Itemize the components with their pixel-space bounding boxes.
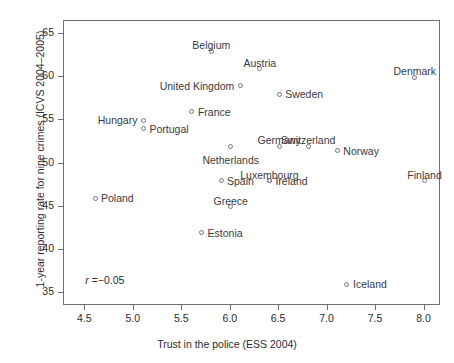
x-tick [133, 305, 134, 310]
data-point [277, 92, 282, 97]
y-tick [58, 76, 63, 77]
data-point-label: Netherlands [202, 155, 259, 166]
x-tick [181, 305, 182, 310]
data-point-label: Sweden [285, 89, 323, 100]
y-axis-title: 1-year reporting rate for nine crimes (I… [34, 14, 46, 304]
x-tick-label: 7.0 [307, 312, 347, 324]
data-point [344, 282, 349, 287]
x-tick-label: 8.0 [404, 312, 444, 324]
x-tick [278, 305, 279, 310]
data-point [267, 178, 272, 183]
x-tick-label: 4.5 [64, 312, 104, 324]
y-tick [58, 292, 63, 293]
x-tick-label: 5.5 [161, 312, 201, 324]
data-point-label: Poland [101, 193, 134, 204]
y-tick [58, 206, 63, 207]
y-tick [58, 119, 63, 120]
data-point [335, 148, 340, 153]
data-point-label: Austria [243, 58, 276, 69]
x-tick [375, 305, 376, 310]
data-point-label: Hungary [98, 115, 138, 126]
x-tick-label: 7.5 [355, 312, 395, 324]
data-point-label: Denmark [394, 66, 437, 77]
data-point [199, 230, 204, 235]
data-point-label: Belgium [192, 40, 230, 51]
data-point [189, 109, 194, 114]
x-tick-label: 5.0 [113, 312, 153, 324]
correlation-value: =−0.05 [89, 274, 125, 286]
data-point [93, 196, 98, 201]
data-point-label: Switzerland [281, 135, 335, 146]
y-tick [58, 163, 63, 164]
x-tick [424, 305, 425, 310]
x-tick [327, 305, 328, 310]
x-axis-title: Trust in the police (ESS 2004) [0, 338, 454, 350]
data-point [219, 178, 224, 183]
x-tick-label: 6.0 [210, 312, 250, 324]
data-point-label: Norway [343, 146, 379, 157]
data-point-label: Ireland [275, 176, 307, 187]
data-point-label: Estonia [208, 228, 243, 239]
data-point-label: Portugal [149, 124, 188, 135]
data-point [141, 126, 146, 131]
scatter-plot-figure: BelgiumAustriaDenmarkUnited KingdomSwede… [0, 0, 454, 363]
data-point [228, 144, 233, 149]
data-point-label: Finland [407, 170, 441, 181]
x-tick [84, 305, 85, 310]
data-point-label: United Kingdom [160, 81, 235, 92]
data-point [141, 118, 146, 123]
x-tick-label: 6.5 [258, 312, 298, 324]
y-tick [58, 249, 63, 250]
x-tick [230, 305, 231, 310]
data-point-label: Greece [213, 196, 247, 207]
data-point [238, 83, 243, 88]
plot-area: BelgiumAustriaDenmarkUnited KingdomSwede… [63, 20, 440, 305]
y-tick [58, 33, 63, 34]
data-point-label: France [198, 107, 231, 118]
data-point-label: Iceland [353, 279, 387, 290]
correlation-annotation: r =−0.05 [85, 274, 124, 286]
